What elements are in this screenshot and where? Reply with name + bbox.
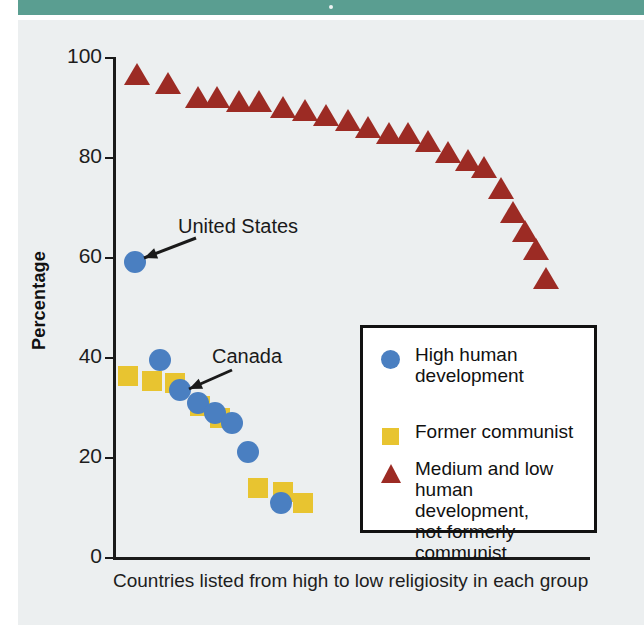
legend-marker-glyph: [381, 464, 401, 483]
plot-area: Percentage Countries listed from high to…: [0, 0, 644, 625]
legend-triangle-icon: [377, 462, 405, 484]
chart-page: Percentage Countries listed from high to…: [0, 0, 644, 625]
data-point-medium-low-human-development: [471, 156, 497, 178]
legend-item-label: Former communist: [415, 421, 573, 442]
legend-item: High human development: [377, 344, 582, 386]
legend-item: Medium and low human development, not fo…: [377, 458, 582, 563]
y-tick-label: 40: [42, 344, 102, 368]
legend-marker-glyph: [382, 428, 399, 445]
data-point-medium-low-human-development: [533, 267, 559, 289]
legend-square-icon: [377, 425, 405, 447]
legend-marker-glyph: [381, 350, 400, 369]
data-point-former-communist: [293, 493, 313, 513]
y-tick-mark: [105, 457, 113, 459]
data-point-medium-low-human-development: [488, 177, 514, 199]
data-point-medium-low-human-development: [246, 90, 272, 112]
y-tick-label: 60: [42, 244, 102, 268]
legend-circle-icon: [377, 348, 405, 370]
data-point-former-communist: [248, 478, 268, 498]
y-tick-mark: [105, 57, 113, 59]
y-tick-label: 80: [42, 144, 102, 168]
data-point-former-communist: [118, 366, 138, 386]
y-tick-mark: [105, 357, 113, 359]
data-point-medium-low-human-development: [124, 63, 150, 85]
y-tick-label: 0: [42, 544, 102, 568]
data-point-high-human-development: [270, 492, 292, 514]
data-point-former-communist: [142, 371, 162, 391]
legend-item: Former communist: [377, 421, 582, 447]
legend-item-label: High human development: [415, 344, 524, 386]
data-point-high-human-development: [237, 441, 259, 463]
data-point-medium-low-human-development: [523, 238, 549, 260]
data-point-high-human-development: [149, 349, 171, 371]
y-tick-label: 100: [42, 44, 102, 68]
y-tick-mark: [105, 257, 113, 259]
annotation-arrow-icon: [175, 356, 246, 403]
y-tick-mark: [105, 157, 113, 159]
chart-legend: High human developmentFormer communistMe…: [360, 325, 597, 533]
y-axis-line: [113, 57, 116, 560]
y-tick-label: 20: [42, 444, 102, 468]
y-tick-mark: [105, 557, 113, 559]
data-point-high-human-development: [221, 412, 243, 434]
x-axis-title: Countries listed from high to low religi…: [113, 570, 613, 592]
annotation-arrow-icon: [130, 224, 210, 272]
data-point-medium-low-human-development: [155, 72, 181, 94]
legend-item-label: Medium and low human development, not fo…: [415, 458, 582, 563]
